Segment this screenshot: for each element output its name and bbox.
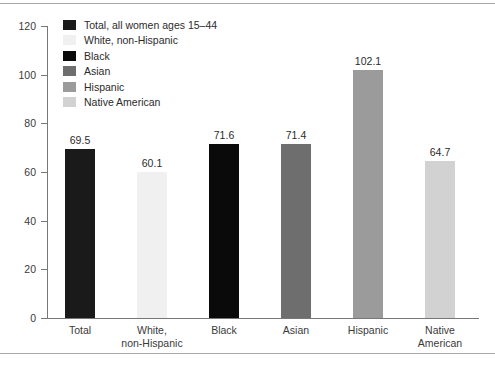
y-axis-tick-label: 100 (0, 70, 36, 81)
bar-value-label: 60.1 (122, 158, 182, 169)
y-axis-tick (41, 221, 47, 222)
y-axis-tick-label: 80 (0, 118, 36, 129)
y-axis-tick-label: 0 (0, 313, 36, 324)
bar (425, 161, 455, 318)
y-axis-tick-label: 60 (0, 167, 36, 178)
legend-swatch-icon (63, 35, 76, 45)
bar-value-label: 71.4 (266, 130, 326, 141)
legend-swatch-icon (63, 51, 76, 61)
legend-item-label: Asian (84, 66, 110, 77)
legend-item: Black (63, 48, 217, 64)
y-axis-tick (41, 172, 47, 173)
legend-item: Total, all women ages 15–44 (63, 17, 217, 33)
legend-item: Native American (63, 95, 217, 111)
y-axis-tick (41, 26, 47, 27)
bar (65, 149, 95, 318)
legend-item-label: White, non-Hispanic (84, 35, 178, 46)
y-axis-tick-label: 120 (0, 21, 36, 32)
bar-value-label: 69.5 (50, 135, 110, 146)
y-axis-tick (41, 318, 47, 319)
y-axis-line (47, 26, 48, 319)
y-axis-tick-label: 20 (0, 264, 36, 275)
bar (281, 144, 311, 318)
bar (353, 70, 383, 318)
chart-legend: Total, all women ages 15–44White, non-Hi… (63, 17, 217, 110)
legend-item: Asian (63, 64, 217, 80)
x-axis-line (47, 318, 479, 319)
category-label-line: American (397, 337, 483, 350)
bar-value-label: 64.7 (410, 147, 470, 158)
bar (137, 172, 167, 318)
legend-item-label: Black (84, 51, 110, 62)
bar-value-label: 102.1 (338, 56, 398, 67)
legend-item: Hispanic (63, 79, 217, 95)
bar-chart: 020406080100120 69.560.171.671.4102.164.… (0, 0, 495, 365)
y-axis-tick (41, 123, 47, 124)
legend-swatch-icon (63, 82, 76, 92)
y-axis-tick (41, 269, 47, 270)
x-axis-category-label: NativeAmerican (397, 324, 483, 349)
bar-value-label: 71.6 (194, 130, 254, 141)
category-label-line: Native (397, 324, 483, 337)
category-label-line: non-Hispanic (109, 337, 195, 350)
y-axis-tick (41, 75, 47, 76)
bar (209, 144, 239, 318)
legend-item: White, non-Hispanic (63, 33, 217, 49)
legend-item-label: Hispanic (84, 82, 124, 93)
legend-swatch-icon (63, 20, 76, 30)
legend-swatch-icon (63, 66, 76, 76)
y-axis-tick-label: 40 (0, 216, 36, 227)
legend-item-label: Native American (84, 97, 160, 108)
legend-item-label: Total, all women ages 15–44 (84, 20, 217, 31)
legend-swatch-icon (63, 97, 76, 107)
